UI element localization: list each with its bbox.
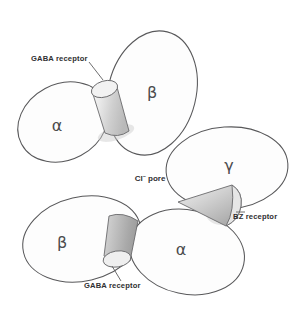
gaba-receptor-figure: β α γ β α [0, 0, 307, 324]
subunit-alpha-upper-left-label: α [52, 116, 63, 135]
chloride-pore-prefix: Cl [135, 174, 143, 183]
leader-gaba-top [89, 62, 103, 80]
gaba-receptor-label-top: GABA receptor [31, 54, 88, 63]
bz-receptor-label: BZ receptor [233, 212, 277, 221]
figure-canvas: β α γ β α [0, 0, 307, 324]
chloride-pore-label: Cl– pore [135, 173, 166, 183]
subunit-beta-upper-right-label: β [147, 83, 157, 102]
subunit-alpha-lower-right-label: α [176, 240, 187, 259]
subunit-beta-lower-left-label: β [57, 233, 67, 252]
chloride-pore-suffix: pore [146, 174, 166, 183]
subunit-gamma-right-label: γ [224, 156, 233, 175]
gaba-receptor-label-bottom: GABA receptor [84, 281, 141, 290]
